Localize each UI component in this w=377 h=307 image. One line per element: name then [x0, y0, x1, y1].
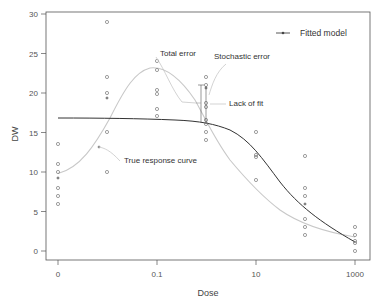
y-axis-title: DW — [10, 126, 20, 141]
x-tick-10: 10 — [252, 270, 261, 279]
y-tick-10: 10 — [29, 168, 38, 177]
annotation-total-error: Total error — [160, 49, 196, 58]
y-tick-20: 20 — [29, 89, 38, 98]
legend-label-fitted-model: Fitted model — [300, 28, 347, 38]
true-response-curve — [58, 68, 355, 237]
x-tick-0.1: 0.1 — [151, 270, 163, 279]
plot-frame — [46, 12, 370, 260]
x-tick-1000: 1000 — [346, 270, 364, 279]
x-axis-title: Dose — [197, 288, 218, 298]
legend-marker-icon — [282, 32, 285, 35]
fitted-model-curve — [58, 118, 355, 242]
y-tick-0: 0 — [34, 247, 39, 256]
observation-points — [56, 20, 356, 252]
x-tick-0: 0 — [56, 270, 61, 279]
annotation-leaders — [99, 57, 226, 161]
y-tick-30: 30 — [29, 10, 38, 19]
legend: Fitted model — [276, 28, 347, 38]
x-axis: 0 0.1 10 1000 Dose — [56, 260, 365, 298]
y-tick-15: 15 — [29, 129, 38, 138]
annotation-lack-of-fit: Lack of fit — [229, 99, 264, 108]
annotation-true-response-curve: True response curve — [124, 156, 198, 165]
annotation-stochastic-error: Stochastic error — [214, 52, 270, 61]
y-tick-5: 5 — [34, 208, 39, 217]
dose-response-chart: 30 25 20 15 10 5 0 DW 0 0.1 10 1000 Dose — [0, 0, 377, 307]
y-axis: 30 25 20 15 10 5 0 DW — [10, 10, 46, 256]
y-tick-25: 25 — [29, 50, 38, 59]
